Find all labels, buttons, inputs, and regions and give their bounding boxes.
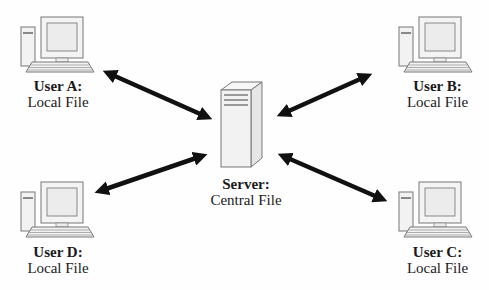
arrow-user-d-server [100, 156, 202, 191]
server-title: Server: [196, 176, 296, 192]
server-subtitle: Central File [196, 192, 296, 208]
user-d-title: User D: [13, 244, 103, 260]
user-d-label: User D: Local File [13, 244, 103, 276]
user-b-label: User B: Local File [390, 78, 485, 110]
user-c-subtitle: Local File [390, 260, 485, 276]
diagram-canvas: User A: Local File User B: Local File Se… [0, 0, 489, 290]
user-a-label: User A: Local File [13, 78, 103, 110]
user-a-computer-icon [21, 17, 94, 72]
server-tower-icon [221, 82, 262, 167]
user-c-computer-icon [399, 182, 472, 237]
user-b-computer-icon [399, 17, 472, 72]
user-c-label: User C: Local File [390, 244, 485, 276]
user-b-subtitle: Local File [390, 94, 485, 110]
user-b-title: User B: [390, 78, 485, 94]
user-d-computer-icon [21, 182, 94, 237]
user-c-title: User C: [390, 244, 485, 260]
arrow-user-c-server [283, 156, 382, 199]
server-label: Server: Central File [196, 176, 296, 208]
user-a-title: User A: [13, 78, 103, 94]
user-a-subtitle: Local File [13, 94, 103, 110]
arrow-user-b-server [282, 76, 367, 114]
user-d-subtitle: Local File [13, 260, 103, 276]
arrow-user-a-server [108, 73, 207, 117]
